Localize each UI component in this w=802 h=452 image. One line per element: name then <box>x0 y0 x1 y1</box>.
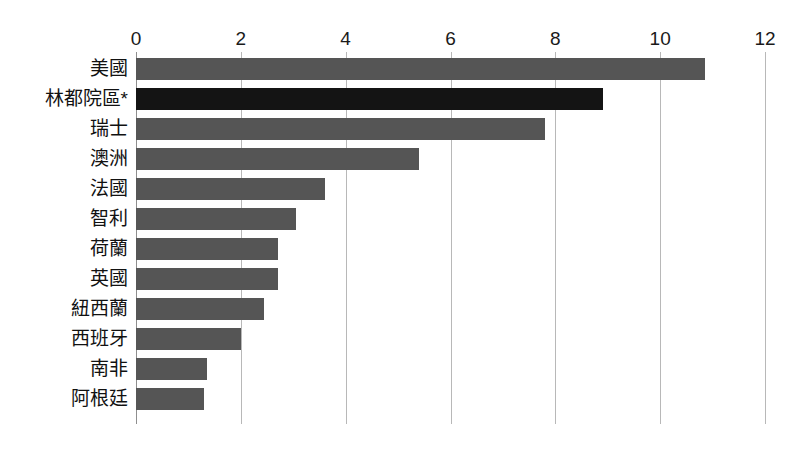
x-tick-label-8: 8 <box>550 28 561 50</box>
bar-紐西蘭 <box>136 298 264 320</box>
bar-林都院區* <box>136 88 603 110</box>
bar-荷蘭 <box>136 238 278 260</box>
category-label-法國: 法國 <box>0 179 128 198</box>
category-label-紐西蘭: 紐西蘭 <box>0 299 128 318</box>
bar-阿根廷 <box>136 388 204 410</box>
x-tick-label-0: 0 <box>131 28 142 50</box>
x-tick-label-2: 2 <box>236 28 247 50</box>
category-label-澳洲: 澳洲 <box>0 149 128 168</box>
category-label-美國: 美國 <box>0 59 128 78</box>
category-label-瑞士: 瑞士 <box>0 119 128 138</box>
bar-澳洲 <box>136 148 419 170</box>
bar-英國 <box>136 268 278 290</box>
bar-chart: 美國林都院區*瑞士澳洲法國智利荷蘭英國紐西蘭西班牙南非阿根廷 024681012 <box>0 0 802 452</box>
gridline-12 <box>765 52 766 424</box>
bar-西班牙 <box>136 328 241 350</box>
x-tick-label-6: 6 <box>445 28 456 50</box>
category-label-林都院區*: 林都院區* <box>0 89 128 108</box>
x-tick-label-4: 4 <box>340 28 351 50</box>
category-label-荷蘭: 荷蘭 <box>0 239 128 258</box>
category-label-智利: 智利 <box>0 209 128 228</box>
bar-南非 <box>136 358 207 380</box>
category-label-南非: 南非 <box>0 359 128 378</box>
bar-瑞士 <box>136 118 545 140</box>
x-tick-label-12: 12 <box>754 28 775 50</box>
bar-智利 <box>136 208 296 230</box>
category-label-英國: 英國 <box>0 269 128 288</box>
plot-area <box>136 52 765 424</box>
bar-美國 <box>136 58 705 80</box>
bar-法國 <box>136 178 325 200</box>
x-tick-label-10: 10 <box>650 28 671 50</box>
category-label-阿根廷: 阿根廷 <box>0 389 128 408</box>
category-label-西班牙: 西班牙 <box>0 329 128 348</box>
gridline-10 <box>660 52 661 424</box>
